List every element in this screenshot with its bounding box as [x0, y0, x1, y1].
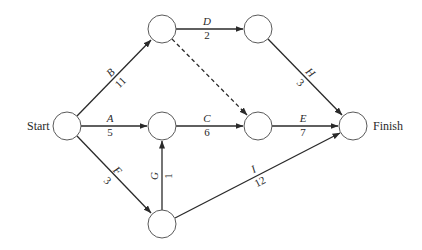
node-top-right	[244, 15, 272, 43]
finish-label: Finish	[373, 119, 403, 133]
edge-f-activity: F	[110, 163, 124, 177]
edge-e-activity: E	[299, 112, 307, 124]
edge-i-duration: 12	[252, 174, 267, 190]
edge-f-duration: 3	[102, 174, 115, 187]
start-label: Start	[27, 119, 50, 133]
edge-g-activity: G	[148, 172, 160, 180]
edge-e-duration: 7	[300, 126, 306, 138]
edge-d-duration: 2	[204, 29, 210, 41]
edge-b	[77, 40, 151, 116]
edge-d-activity: D	[202, 15, 211, 27]
edge-a-activity: A	[106, 112, 114, 124]
node-finish	[339, 112, 367, 140]
edge-c-duration: 6	[204, 126, 210, 138]
node-mid-center	[148, 112, 176, 140]
node-top-left	[148, 15, 176, 43]
edge-i-activity: I	[248, 162, 259, 175]
node-bottom	[148, 210, 176, 238]
node-mid-right	[244, 112, 272, 140]
edge-c-activity: C	[203, 112, 211, 124]
project-network-diagram: Start Finish A 5 C 6 E 7 D 2 B 11 F 3 H …	[0, 0, 422, 250]
edge-h-duration: 3	[295, 76, 308, 89]
edge-g-duration: 1	[162, 173, 174, 179]
edge-a-duration: 5	[107, 126, 113, 138]
node-start	[53, 112, 81, 140]
edge-dummy	[172, 39, 247, 115]
